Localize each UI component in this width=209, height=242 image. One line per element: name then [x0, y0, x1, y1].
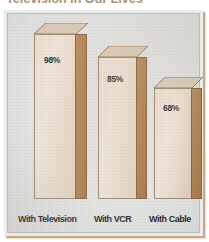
bar-with-vcr[interactable]: 85%: [98, 46, 137, 199]
headline-strip: Television in Our Lives: [0, 0, 209, 9]
bar-top-polygon: [98, 46, 148, 57]
bar-top-face: [98, 46, 148, 57]
bar-side-face: [136, 57, 147, 199]
category-label-with-cable: With Cable: [149, 214, 191, 224]
plot-area: 98% 85%: [12, 18, 195, 228]
bar-with-cable[interactable]: 68%: [154, 77, 192, 199]
bar-side-face: [191, 88, 202, 199]
bar-top-face: [154, 77, 203, 88]
chart-plate: 98% 85%: [4, 10, 203, 236]
bar-top-polygon: [34, 23, 88, 34]
bar-value-label: 98%: [44, 55, 60, 65]
category-label-with-vcr: With VCR: [94, 214, 131, 224]
category-label-with-television: With Television: [18, 214, 77, 224]
bar-top-polygon: [154, 77, 203, 88]
bar-side-face: [75, 34, 87, 199]
chart-headline: Television in Our Lives: [6, 0, 143, 6]
bar-top-face: [34, 23, 88, 34]
bar-value-label: 85%: [107, 74, 123, 84]
bar-value-label: 68%: [163, 103, 179, 113]
chart-frame: 98% 85%: [7, 13, 200, 233]
bar-with-television[interactable]: 98%: [34, 23, 76, 199]
